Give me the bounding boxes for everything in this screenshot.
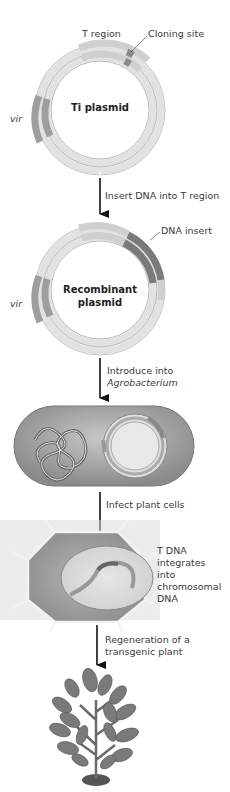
dna-insert-label: DNA insert	[161, 225, 212, 236]
arrow4-label-line2: transgenic plant	[105, 646, 182, 657]
t-dna-note-2: integrates	[157, 557, 206, 568]
nucleus	[61, 546, 153, 610]
arrow4-label-line1: Regeneration of a	[105, 634, 190, 645]
agrobacterium-cell	[14, 406, 194, 486]
transgenic-plant	[48, 667, 141, 786]
arrow2-label-line2: Agrobacterium	[107, 377, 178, 388]
arrow1-label: Insert DNA into T region	[105, 190, 219, 201]
diagram-canvas	[0, 0, 230, 792]
t-dna-note-1: T DNA	[157, 545, 187, 556]
cloning-site-label: Cloning site	[148, 28, 204, 39]
t-dna-note-4: chromosomal	[157, 581, 221, 592]
recombinant-plasmid-title-line1: Recombinant	[55, 284, 145, 296]
t-dna-note-5: DNA	[157, 593, 178, 604]
t-region-label: T region	[82, 28, 121, 39]
vir-label-1: vir	[10, 113, 22, 124]
ti-plasmid-title: Ti plasmid	[60, 102, 140, 114]
cloning-site-mark	[127, 52, 133, 55]
arrow3-label: Infect plant cells	[106, 499, 185, 510]
t-dna-note-3: into	[157, 569, 175, 580]
vir-label-2: vir	[10, 298, 22, 309]
recombinant-plasmid-title-line2: plasmid	[55, 297, 145, 309]
plant-cell	[0, 520, 160, 632]
arrow2-label-line1: Introduce into	[107, 365, 173, 376]
